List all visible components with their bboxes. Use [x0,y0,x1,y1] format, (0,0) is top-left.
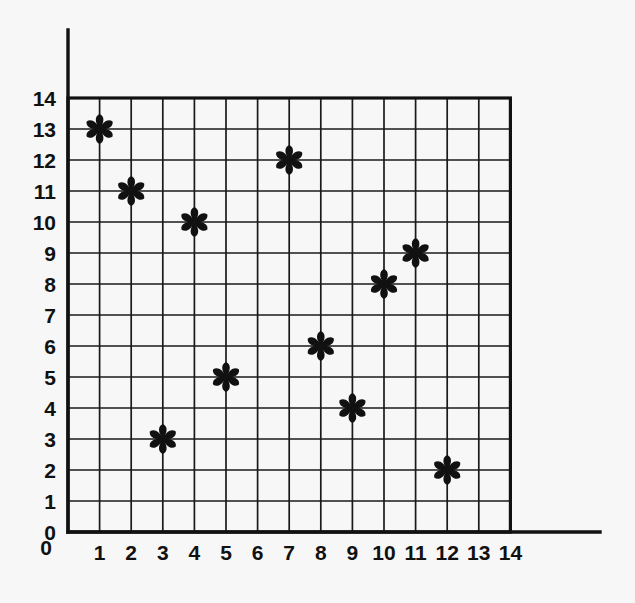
x-axis-tick-label: 3 [157,541,169,564]
y-axis-tick-label: 1 [44,490,56,513]
y-axis-tick-label: 13 [33,118,56,141]
x-axis-tick-label: 10 [372,541,395,564]
y-axis-tick-label: 2 [44,459,56,482]
x-axis-tick-label: 5 [220,541,232,564]
x-axis-tick-label: 8 [315,541,327,564]
x-axis-tick-label: 0 [40,536,52,559]
x-axis-tick-label: 13 [467,541,490,564]
x-axis-tick-label: 7 [283,541,295,564]
y-axis-tick-label: 12 [33,149,56,172]
x-axis-tick-label: 14 [499,541,523,564]
y-axis-tick-label: 8 [44,273,56,296]
x-axis-tick-label: 2 [125,541,137,564]
y-axis-tick-label: 10 [33,211,56,234]
y-axis-tick-label: 6 [44,335,56,358]
x-axis-tick-labels: 01234567891011121314 [40,536,522,564]
y-axis-tick-labels: 01234567891011121314 [33,87,57,544]
x-axis-tick-label: 1 [94,541,106,564]
y-axis-tick-label: 14 [33,87,57,110]
y-axis-tick-label: 5 [44,366,56,389]
x-axis-tick-label: 4 [189,541,201,564]
y-axis-tick-label: 9 [44,242,56,265]
x-axis-tick-label: 12 [436,541,459,564]
y-axis-tick-label: 7 [44,304,56,327]
chart-axes [68,30,600,532]
y-axis-tick-label: 3 [44,428,56,451]
scatter-data-markers [87,114,461,485]
scatter-plot-figure: 01234567891011121314 0123456789101112131… [0,0,635,603]
y-axis-tick-label: 4 [44,397,56,420]
x-axis-tick-label: 6 [252,541,264,564]
x-axis-tick-label: 11 [404,541,427,564]
x-axis-tick-label: 9 [347,541,359,564]
scatter-plot-canvas: 01234567891011121314 0123456789101112131… [0,0,635,603]
y-axis-tick-label: 11 [34,180,57,203]
